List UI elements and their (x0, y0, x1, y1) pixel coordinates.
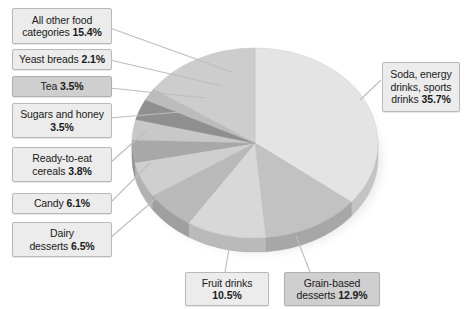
callout-ready-to-eat-cereals[interactable]: Ready-to-eat cereals 3.8% (12, 147, 112, 182)
callout-candy[interactable]: Candy 6.1% (12, 193, 112, 214)
callout-yeast-breads[interactable]: Yeast breads 2.1% (12, 49, 112, 70)
callout-dairy-desserts-text: Dairy desserts 6.5% (17, 227, 107, 252)
callout-tea[interactable]: Tea 3.5% (12, 76, 112, 97)
callout-tea-text: Tea 3.5% (17, 80, 107, 93)
leader-line-dairy-desserts (110, 195, 160, 238)
pie-chart-figure: Soda, energy drinks, sports drinks 35.7%… (0, 0, 467, 309)
callout-sugars-and-honey-text: Sugars and honey 3.5% (17, 108, 107, 133)
callout-grain-based-desserts[interactable]: Grain-based desserts 12.9% (284, 272, 380, 306)
callout-sugars-and-honey[interactable]: Sugars and honey 3.5% (12, 103, 112, 138)
callout-fruit-drinks[interactable]: Fruit drinks 10.5% (185, 272, 269, 306)
callout-all-other-food[interactable]: All other food categories 15.4% (12, 8, 112, 44)
leader-line-all-other-food (110, 28, 232, 72)
pie-top-slices: Soda, energy drinks, sports drinks 35.7%… (132, 48, 378, 238)
callout-soda-energy-sports-drinks-text: Soda, energy drinks, sports drinks 35.7% (387, 68, 455, 106)
callout-ready-to-eat-cereals-text: Ready-to-eat cereals 3.8% (17, 152, 107, 177)
callout-dairy-desserts[interactable]: Dairy desserts 6.5% (12, 222, 112, 257)
callout-yeast-breads-text: Yeast breads 2.1% (17, 53, 107, 66)
leader-line-soda (360, 80, 381, 100)
callout-fruit-drinks-text: Fruit drinks 10.5% (190, 277, 264, 302)
callout-all-other-food-text: All other food categories 15.4% (17, 14, 107, 39)
callout-candy-text: Candy 6.1% (17, 197, 107, 210)
callout-grain-based-desserts-text: Grain-based desserts 12.9% (289, 277, 375, 302)
callout-soda-energy-sports-drinks[interactable]: Soda, energy drinks, sports drinks 35.7% (382, 62, 460, 112)
